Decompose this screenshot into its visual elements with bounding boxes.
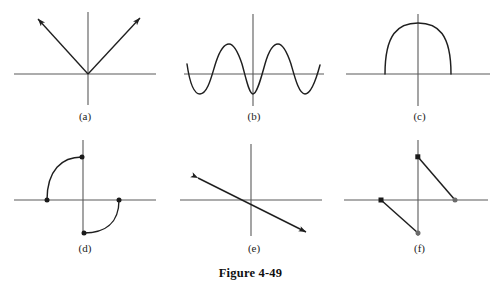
arc-lower-end-dot [82, 231, 87, 236]
panel-c-plot [338, 0, 501, 110]
panel-c [338, 0, 501, 110]
panel-a [0, 0, 170, 110]
arc-lower [84, 200, 119, 233]
panel-label-a: (a) [0, 110, 170, 122]
panel-d-plot [0, 132, 170, 242]
segment-lower-start-dot [379, 198, 384, 203]
panel-label-d: (d) [0, 242, 170, 254]
segment-upper-start-dot [415, 154, 420, 159]
panel-a-plot [0, 0, 170, 110]
panel-e [170, 132, 338, 242]
segment-upper-end-dot [453, 198, 458, 203]
segment-upper [418, 157, 455, 200]
figure-container: (a) (b) (c) (d) [0, 0, 501, 285]
panel-f [338, 132, 501, 242]
panel-label-e: (e) [170, 242, 338, 254]
panel-label-f: (f) [338, 242, 501, 254]
figure-caption: Figure 4-49 [0, 266, 501, 281]
segment-lower-end-dot [416, 231, 421, 236]
panel-d [0, 132, 170, 242]
arc-lower-start-dot [117, 198, 122, 203]
ray-left [38, 19, 88, 74]
panel-f-plot [338, 132, 501, 242]
panel-label-b: (b) [170, 110, 338, 122]
double-arrow-line [198, 178, 306, 232]
ray-right [88, 18, 140, 74]
panel-label-c: (c) [338, 110, 501, 122]
arc-upper-start-dot [45, 198, 50, 203]
segment-lower [381, 200, 418, 233]
panel-b-plot [170, 0, 338, 110]
panel-b [170, 0, 338, 110]
panel-e-plot [170, 132, 338, 242]
arc-upper [47, 157, 82, 200]
arc-upper-end-dot [80, 155, 85, 160]
